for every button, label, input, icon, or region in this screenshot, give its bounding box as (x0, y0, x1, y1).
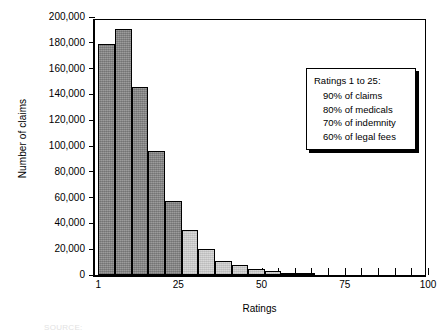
ratings-summary-box: Ratings 1 to 25: 90% of claims 80% of me… (306, 68, 416, 150)
y-tick-mark (89, 17, 95, 18)
annotation-title: Ratings 1 to 25: (314, 74, 409, 87)
histogram-bar (281, 273, 298, 275)
y-tick-label: 40,000 (54, 218, 85, 228)
annotation-line: 70% of indemnity (314, 116, 409, 129)
histogram-bar (182, 230, 199, 275)
x-tick-label: 75 (339, 279, 350, 290)
annotation-line: 60% of legal fees (314, 130, 409, 143)
claims-by-rating-histogram: Number of claims 020,00040,00060,00080,0… (0, 0, 446, 332)
y-tick-mark (89, 197, 95, 198)
x-tick-label: 100 (420, 279, 437, 290)
x-tick-mark (395, 268, 396, 275)
annotation-line: 90% of claims (314, 89, 409, 102)
x-tick-label: 50 (256, 279, 267, 290)
y-axis-title-text: Number of claims (18, 99, 29, 178)
histogram-bar (232, 265, 249, 275)
y-tick-label: 20,000 (54, 244, 85, 254)
x-tick-mark (345, 268, 346, 275)
histogram-bar (298, 273, 315, 275)
y-tick-mark (89, 275, 95, 276)
histogram-bar (115, 29, 132, 275)
histogram-bar (98, 44, 115, 275)
y-tick-mark (89, 223, 95, 224)
histogram-bar (198, 249, 215, 275)
y-tick-mark (89, 94, 95, 95)
y-tick-mark (89, 249, 95, 250)
annotation-line: 80% of medicals (314, 103, 409, 116)
y-tick-label: 200,000 (49, 12, 85, 22)
x-tick-label: 1 (96, 279, 102, 290)
histogram-bar (132, 87, 149, 275)
y-tick-label: 80,000 (54, 167, 85, 177)
x-tick-mark (361, 268, 362, 275)
x-tick-mark (328, 268, 329, 275)
y-tick-mark (89, 171, 95, 172)
histogram-bar (215, 261, 232, 275)
histogram-bar (248, 269, 265, 275)
histogram-bar (265, 271, 282, 275)
x-tick-mark (428, 268, 429, 275)
y-tick-label: 60,000 (54, 193, 85, 203)
y-tick-mark (89, 68, 95, 69)
x-axis-title-text: Ratings (243, 303, 277, 314)
x-axis-title: Ratings (93, 303, 426, 314)
plot-area: 020,00040,00060,00080,000100,000120,0001… (93, 19, 426, 277)
histogram-bar (165, 201, 182, 275)
y-tick-label: 140,000 (49, 89, 85, 99)
x-tick-mark (411, 268, 412, 275)
y-axis-title: Number of claims (14, 0, 32, 277)
y-tick-mark (89, 146, 95, 147)
x-tick-mark (378, 268, 379, 275)
y-tick-label: 160,000 (49, 64, 85, 74)
y-tick-label: 0 (79, 270, 85, 280)
y-tick-mark (89, 42, 95, 43)
x-tick-label: 25 (173, 279, 184, 290)
y-tick-label: 180,000 (49, 38, 85, 48)
y-tick-label: 100,000 (49, 141, 85, 151)
y-tick-mark (89, 120, 95, 121)
y-tick-label: 120,000 (49, 115, 85, 125)
histogram-bar (148, 151, 165, 275)
source-footnote: SOURCE: (44, 323, 83, 332)
